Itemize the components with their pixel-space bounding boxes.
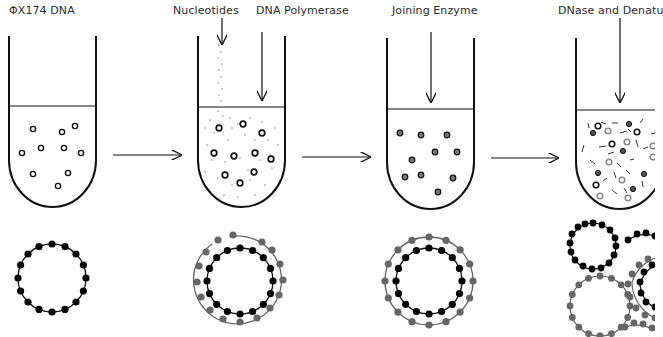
black-circles — [593, 123, 640, 188]
template-beads — [203, 244, 276, 317]
circle-diagram-step3 — [381, 233, 476, 328]
test-tube-4 — [576, 38, 655, 209]
circle-diagram-step4 — [567, 220, 655, 337]
circle-diagram-step2 — [193, 231, 286, 325]
template-beads — [14, 240, 89, 315]
filled-circles — [590, 121, 646, 191]
test-tube-1 — [9, 36, 96, 207]
gray-circles — [597, 128, 655, 201]
ssdna-template-molecules — [211, 121, 274, 186]
test-tube-2 — [198, 36, 285, 207]
ssdna-molecules — [19, 123, 83, 188]
closed-duplex-molecules — [397, 130, 460, 195]
template-beads — [392, 244, 465, 317]
circle-diagram-step1 — [14, 240, 89, 315]
